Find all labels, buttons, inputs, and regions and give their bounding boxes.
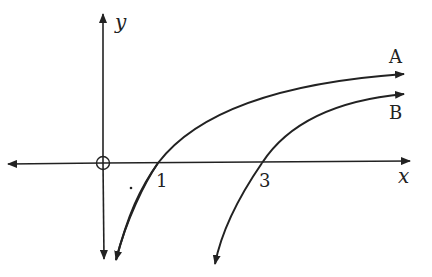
curve-a-label: A: [389, 48, 402, 66]
curve-b: [262, 94, 404, 163]
x-axis-label: x: [398, 166, 409, 186]
tick-label-3: 3: [259, 172, 270, 190]
curve-b-label: B: [389, 104, 402, 122]
y-axis-label: y: [115, 12, 126, 32]
x-axis: [8, 161, 410, 164]
y-axis: [103, 14, 104, 259]
tick-label-1: 1: [156, 172, 167, 190]
graph-canvas: [0, 0, 432, 277]
